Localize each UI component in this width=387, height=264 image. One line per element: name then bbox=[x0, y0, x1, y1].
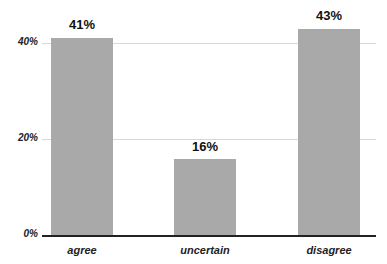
x-label-uncertain: uncertain bbox=[160, 244, 250, 256]
x-label-disagree: disagree bbox=[284, 244, 374, 256]
value-label-uncertain: 16% bbox=[165, 139, 245, 154]
x-label-agree: agree bbox=[37, 244, 127, 256]
x-axis-baseline bbox=[42, 235, 376, 237]
bar-chart: 40% 20% 0% 41% 16% 43% agree uncertain d… bbox=[0, 0, 387, 264]
bar-disagree bbox=[298, 29, 360, 235]
bar-agree bbox=[51, 38, 113, 235]
value-label-disagree: 43% bbox=[289, 8, 369, 23]
y-tick-20: 20% bbox=[2, 132, 38, 143]
y-tick-0: 0% bbox=[2, 228, 38, 239]
value-label-agree: 41% bbox=[42, 17, 122, 32]
bar-uncertain bbox=[174, 159, 236, 235]
y-tick-40: 40% bbox=[2, 36, 38, 47]
